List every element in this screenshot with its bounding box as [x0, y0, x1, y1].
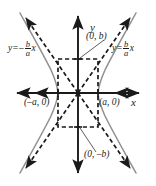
vertex-right-label: (a, 0) [99, 98, 120, 108]
covertex-bottom-label: (0, –b) [84, 150, 109, 160]
asymptote-left-equation: y = – b a x [8, 40, 36, 58]
leader-lines [80, 40, 104, 152]
hyperbola-figure: y x (0, b) (0, –b) (–a, 0) (a, 0) y = – … [0, 0, 156, 186]
asymptote-right-fraction: b a [123, 40, 129, 58]
x-axis-label: x [131, 97, 136, 108]
hyperbola-graphic [0, 0, 156, 186]
asymptote-right-variable: x [130, 44, 134, 54]
asymptote-right-equation: y = b a x [112, 40, 134, 58]
asymptote-left-denominator: a [25, 48, 31, 58]
covertex-top-label: (0, b) [86, 32, 107, 42]
asymptote-left-sign: – [19, 44, 25, 54]
asymptote-right-denominator: a [123, 48, 129, 58]
asymptote-left-variable: x [32, 44, 36, 54]
asymptote-left-numerator: b [25, 40, 31, 49]
vertex-left-label: (–a, 0) [24, 98, 49, 108]
asymptote-left-fraction: b a [25, 40, 31, 58]
asymptote-right-equals: = [116, 44, 122, 54]
leader-line-covertex-top [80, 40, 104, 58]
asymptote-right-numerator: b [123, 40, 129, 49]
